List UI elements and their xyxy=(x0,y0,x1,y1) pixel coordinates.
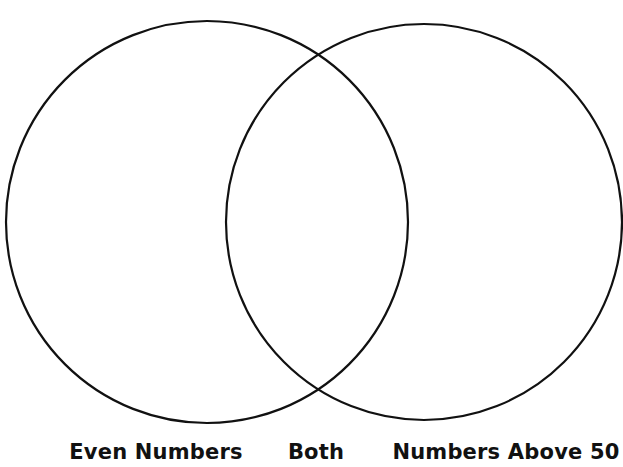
venn-circle-even-numbers xyxy=(6,21,408,423)
venn-diagram xyxy=(0,0,623,467)
label-both: Both xyxy=(288,440,344,464)
label-numbers-above-50: Numbers Above 50 xyxy=(392,440,619,464)
venn-circle-numbers-above-50 xyxy=(226,24,622,420)
label-even-numbers: Even Numbers xyxy=(69,440,242,464)
